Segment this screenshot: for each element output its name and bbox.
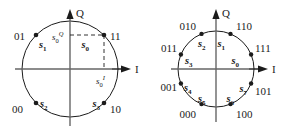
i-proj-sup: I <box>102 74 106 81</box>
qpsk-i-axis-label: I <box>135 63 139 75</box>
qpsk-i-axis-arrowhead <box>121 65 131 72</box>
8psk-point-s2 <box>199 32 203 36</box>
qpsk-q-axis-arrowhead <box>66 9 73 19</box>
8psk-q-axis-label: Q <box>222 7 230 19</box>
qpsk-symbol-s0-sub: 0 <box>86 45 90 53</box>
8psk-symbol-s2: s2 <box>197 38 206 52</box>
qpsk-symbol-s3-sub: 3 <box>97 104 101 112</box>
8psk-point-s3 <box>179 52 183 56</box>
i-proj-sub: 0 <box>100 81 103 88</box>
qpsk-bits-s0: 11 <box>110 30 121 42</box>
qpsk-bits-s2: 00 <box>12 103 24 115</box>
8psk-symbol-s4-sub: 4 <box>188 88 192 96</box>
8psk-symbol-s3: s3 <box>184 55 193 69</box>
8psk-constellation: Q I 111 110 010 011 001 000 100 101 s0 s… <box>161 7 277 122</box>
qpsk-point-s0 <box>102 33 107 38</box>
qpsk-symbol-s2-sub: 2 <box>44 104 48 112</box>
8psk-bits-s7: 101 <box>255 85 272 97</box>
8psk-bits-s6: 100 <box>236 108 253 120</box>
qpsk-bits-s1: 01 <box>14 30 25 42</box>
qpsk-symbol-s1-sub: 1 <box>43 45 47 53</box>
8psk-symbol-s0: s0 <box>230 55 239 69</box>
8psk-bits-s4: 001 <box>161 81 178 93</box>
qpsk-constellation: Q I s0Q s0I 01 11 00 10 <box>12 7 139 126</box>
qpsk-point-s1 <box>34 33 39 38</box>
qpsk-symbol-s3: s3 <box>91 98 100 112</box>
8psk-bits-s0: 111 <box>255 42 271 54</box>
q-proj-sup: Q <box>59 30 64 37</box>
8psk-symbol-s5-sub: 5 <box>202 99 206 107</box>
8psk-symbol-s3-sub: 3 <box>189 61 193 69</box>
qpsk-point-s2 <box>34 101 39 106</box>
8psk-i-axis-arrowhead <box>258 65 268 72</box>
8psk-symbol-s6: s6 <box>225 93 234 107</box>
8psk-bits-s2: 010 <box>180 20 197 32</box>
8psk-symbol-s4: s4 <box>183 82 192 96</box>
qpsk-bits-s3: 10 <box>110 103 122 115</box>
qpsk-symbol-s1: s1 <box>38 39 47 53</box>
8psk-point-s4 <box>179 81 183 85</box>
8psk-bits-s1: 110 <box>236 20 253 32</box>
8psk-q-axis-arrowhead <box>212 9 219 19</box>
8psk-point-s1 <box>228 32 232 36</box>
8psk-symbol-s2-sub: 2 <box>202 44 206 52</box>
8psk-symbol-s1-sub: 1 <box>222 44 226 52</box>
8psk-symbol-s0-sub: 0 <box>236 61 240 69</box>
8psk-symbol-s1: s1 <box>216 38 225 52</box>
8psk-bits-s5: 000 <box>180 108 197 120</box>
8psk-point-s7 <box>249 81 253 85</box>
8psk-symbol-s7: s7 <box>238 83 247 97</box>
qpsk-i-projection-label: s0I <box>96 74 106 88</box>
figure-root: Q I s0Q s0I 01 11 00 10 <box>0 0 292 134</box>
qpsk-point-s3 <box>102 101 107 106</box>
8psk-symbol-s7-sub: 7 <box>244 89 248 97</box>
qpsk-symbol-s2: s2 <box>39 98 48 112</box>
qpsk-q-projection-label: s0Q <box>52 30 64 44</box>
svg-text:s0I: s0I <box>96 74 106 88</box>
8psk-i-axis-label: I <box>272 63 276 75</box>
q-proj-sub: 0 <box>56 37 59 44</box>
8psk-point-s0 <box>249 52 253 56</box>
8psk-symbol-s5: s5 <box>197 93 206 107</box>
svg-text:s0Q: s0Q <box>52 30 64 44</box>
qpsk-symbol-s0: s0 <box>80 39 89 53</box>
8psk-bits-s3: 011 <box>161 42 177 54</box>
constellation-diagram-svg: Q I s0Q s0I 01 11 00 10 <box>0 0 292 134</box>
8psk-symbol-s6-sub: 6 <box>231 99 235 107</box>
qpsk-q-axis-label: Q <box>76 7 84 19</box>
